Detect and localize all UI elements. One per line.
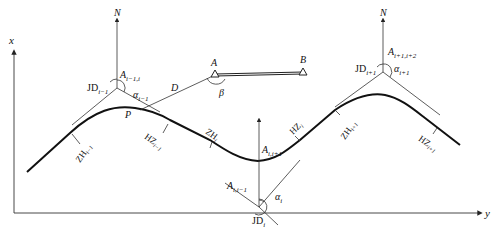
beta-label: β xyxy=(218,87,224,98)
jd-label: JDi xyxy=(252,215,265,228)
point-b-label: B xyxy=(300,54,306,65)
angle-label: αi−1 xyxy=(133,89,148,103)
route-curve xyxy=(27,94,460,172)
jd-i-plus-1: JDi+1 Ai+1,i+2 αi+1 xyxy=(355,46,417,77)
hz-i-plus-1-label: HZi+1 xyxy=(416,133,439,154)
control-point-b-icon xyxy=(299,68,307,75)
north-label: N xyxy=(113,7,122,18)
point-a-label: A xyxy=(210,57,218,68)
jd-i-minus-1: JDi−1 Ai−1,i αi−1 xyxy=(87,69,148,103)
x-axis-label: x xyxy=(8,34,14,46)
coordinate-axes: x y xyxy=(8,34,490,219)
route-diagram: x y N N JDi−1 Ai−1,i αi−1 xyxy=(0,0,499,228)
distance-label: D xyxy=(170,82,179,93)
y-axis-label: y xyxy=(484,207,490,219)
azimuth-in-label: Ai,i−1 xyxy=(226,180,247,194)
point-p-label: P xyxy=(124,109,131,120)
azimuth-label: Ai−1,i xyxy=(119,69,140,83)
hz-i-label: HZi xyxy=(287,119,305,137)
jd-label: JDi−1 xyxy=(87,82,108,96)
angle-label: αi+1 xyxy=(394,63,409,77)
azimuth-label: Ai+1,i+2 xyxy=(387,46,417,60)
jd-i: JDi Ai,i−1 Ai,i+1 αi xyxy=(226,144,282,228)
jd-label: JDi+1 xyxy=(355,63,376,77)
zh-i-plus-1-label: ZHi+1 xyxy=(338,118,359,141)
azimuth-out-label: Ai,i+1 xyxy=(261,144,282,158)
control-baseline: A B β D P xyxy=(124,54,307,120)
hz-i-1-label: HZi−1 xyxy=(142,131,165,152)
north-arrows: N N xyxy=(113,7,388,207)
north-label: N xyxy=(379,7,388,18)
angle-label: αi xyxy=(275,191,282,205)
zh-i-1-label: ZHi−1 xyxy=(73,141,94,164)
